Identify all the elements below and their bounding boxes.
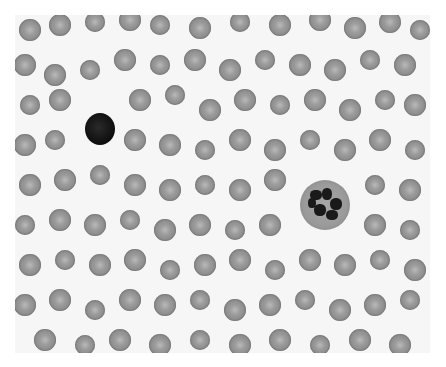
- red-blood-cell: [365, 175, 385, 195]
- red-blood-cell: [150, 55, 170, 75]
- red-blood-cell: [360, 50, 380, 70]
- red-blood-cell: [229, 249, 251, 271]
- red-blood-cell: [389, 334, 411, 353]
- red-blood-cell: [255, 50, 275, 70]
- red-blood-cell: [295, 290, 315, 310]
- red-blood-cell: [154, 219, 176, 241]
- red-blood-cell: [15, 134, 36, 156]
- red-blood-cell: [400, 220, 420, 240]
- red-blood-cell: [264, 139, 286, 161]
- red-blood-cell: [369, 129, 391, 151]
- red-blood-cell: [259, 294, 281, 316]
- red-blood-cell: [309, 15, 331, 31]
- red-blood-cell: [304, 89, 326, 111]
- red-blood-cell: [299, 249, 321, 271]
- red-blood-cell: [20, 95, 40, 115]
- nucleus-lobe: [308, 198, 316, 208]
- red-blood-cell: [370, 250, 390, 270]
- red-blood-cell: [49, 89, 71, 111]
- red-blood-cell: [399, 179, 421, 201]
- red-blood-cell: [19, 174, 41, 196]
- nucleus-lobe: [330, 198, 342, 210]
- lymphocyte: [85, 113, 115, 145]
- red-blood-cell: [119, 289, 141, 311]
- red-blood-cell: [190, 330, 210, 350]
- red-blood-cell: [129, 89, 151, 111]
- red-blood-cell: [90, 165, 110, 185]
- red-blood-cell: [34, 329, 56, 351]
- red-blood-cell: [49, 289, 71, 311]
- red-blood-cell: [189, 17, 211, 39]
- red-blood-cell: [269, 329, 291, 351]
- red-blood-cell: [339, 99, 361, 121]
- red-blood-cell: [410, 20, 430, 40]
- red-blood-cell: [85, 15, 105, 32]
- red-blood-cell: [289, 54, 311, 76]
- nucleus-lobe: [314, 204, 326, 216]
- red-blood-cell: [394, 54, 416, 76]
- red-blood-cell: [154, 294, 176, 316]
- red-blood-cell: [334, 139, 356, 161]
- red-blood-cell: [269, 15, 291, 36]
- red-blood-cell: [150, 15, 170, 35]
- red-blood-cell: [80, 60, 100, 80]
- red-blood-cell: [75, 335, 95, 353]
- red-blood-cell: [109, 329, 131, 351]
- blood-smear-image: [15, 15, 430, 353]
- red-blood-cell: [195, 140, 215, 160]
- red-blood-cell: [54, 169, 76, 191]
- red-blood-cell: [49, 209, 71, 231]
- red-blood-cell: [189, 214, 211, 236]
- red-blood-cell: [344, 17, 366, 39]
- neutrophil: [300, 180, 350, 230]
- red-blood-cell: [119, 15, 141, 31]
- red-blood-cell: [229, 129, 251, 151]
- red-blood-cell: [270, 95, 290, 115]
- red-blood-cell: [194, 254, 216, 276]
- red-blood-cell: [199, 99, 221, 121]
- red-blood-cell: [49, 15, 71, 36]
- red-blood-cell: [264, 169, 286, 191]
- nucleus-lobe: [326, 210, 338, 220]
- red-blood-cell: [405, 140, 425, 160]
- red-blood-cell: [259, 214, 281, 236]
- red-blood-cell: [124, 174, 146, 196]
- red-blood-cell: [19, 19, 41, 41]
- red-blood-cell: [165, 85, 185, 105]
- red-blood-cell: [159, 134, 181, 156]
- red-blood-cell: [159, 179, 181, 201]
- red-blood-cell: [15, 215, 35, 235]
- red-blood-cell: [334, 254, 356, 276]
- red-blood-cell: [379, 15, 401, 33]
- red-blood-cell: [230, 15, 250, 32]
- red-blood-cell: [85, 300, 105, 320]
- red-blood-cell: [400, 290, 420, 310]
- red-blood-cell: [44, 64, 66, 86]
- red-blood-cell: [364, 294, 386, 316]
- red-blood-cell: [184, 49, 206, 71]
- red-blood-cell: [124, 249, 146, 271]
- red-blood-cell: [349, 329, 371, 351]
- red-blood-cell: [124, 129, 146, 151]
- red-blood-cell: [375, 90, 395, 110]
- red-blood-cell: [84, 214, 106, 236]
- red-blood-cell: [404, 94, 426, 116]
- red-blood-cell: [224, 299, 246, 321]
- red-blood-cell: [114, 49, 136, 71]
- red-blood-cell: [364, 214, 386, 236]
- red-blood-cell: [229, 179, 251, 201]
- nucleus-lobe: [322, 188, 332, 200]
- red-blood-cell: [15, 294, 36, 316]
- red-blood-cell: [234, 89, 256, 111]
- red-blood-cell: [15, 54, 36, 76]
- red-blood-cell: [300, 130, 320, 150]
- red-blood-cell: [89, 254, 111, 276]
- red-blood-cell: [329, 299, 351, 321]
- red-blood-cell: [190, 290, 210, 310]
- red-blood-cell: [149, 334, 171, 353]
- red-blood-cell: [55, 250, 75, 270]
- red-blood-cell: [229, 334, 251, 353]
- red-blood-cell: [120, 210, 140, 230]
- red-blood-cell: [324, 59, 346, 81]
- red-blood-cell: [45, 130, 65, 150]
